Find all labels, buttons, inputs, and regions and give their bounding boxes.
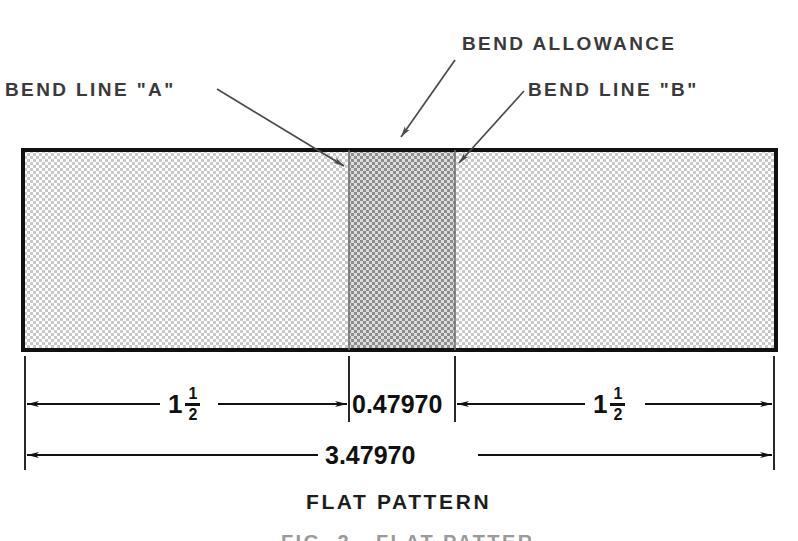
dimension-left-whole: 1 [168,391,182,417]
flat-pattern-body [23,150,776,350]
dimension-left-denominator: 2 [188,406,199,423]
label-bend-line-b: BEND LINE "B" [528,79,699,101]
dimension-right-fraction: 1 2 [610,386,625,423]
dimension-right-flange: 1 1 2 [593,385,625,422]
bend-allowance-region [349,150,455,350]
left-flange-region [23,150,349,350]
dimension-bend-allowance: 0.47970 [352,390,442,419]
dimension-right-denominator: 2 [613,406,624,423]
dimension-right-whole: 1 [593,391,607,417]
dimension-left-numerator: 1 [188,386,199,403]
diagram-title: FLAT PATTERN [306,490,491,514]
dimension-left-flange: 1 1 2 [168,385,200,422]
label-bend-line-a: BEND LINE "A" [5,79,176,101]
dimension-left-fraction: 1 2 [185,386,200,423]
dimension-overall-length: 3.47970 [325,441,415,470]
right-flange-region [455,150,776,350]
flat-pattern-diagram: BEND LINE "A" BEND ALLOWANCE BEND LINE "… [0,0,798,541]
label-bend-allowance: BEND ALLOWANCE [462,33,676,55]
dimension-right-numerator: 1 [613,386,624,403]
diagram-caption-partial: FIG. 2 - FLAT PATTERN [281,531,531,541]
leader-bend-allowance [401,60,455,137]
